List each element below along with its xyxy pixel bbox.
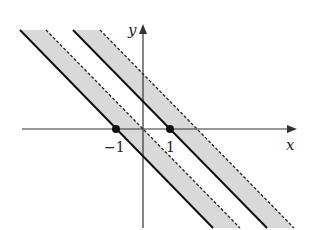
point-1 — [166, 125, 174, 133]
y-axis-label: y — [127, 21, 137, 39]
point-neg1 — [112, 125, 120, 133]
y-axis-arrow-icon — [139, 24, 147, 34]
tick-label-neg1: −1 — [104, 139, 125, 155]
x-axis-label: x — [286, 136, 295, 154]
tick-label-1: 1 — [166, 139, 175, 155]
graph: y x −1 1 — [0, 0, 315, 230]
x-axis-arrow-icon — [287, 125, 297, 133]
